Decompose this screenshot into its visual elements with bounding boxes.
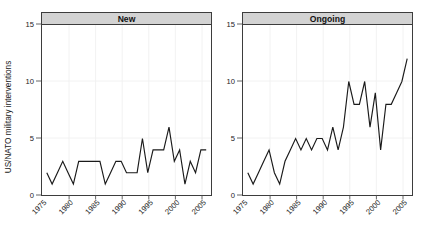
- x-tick-label: 1980: [258, 198, 276, 216]
- panel-ongoing-x-ticks: [270, 196, 403, 200]
- y-tick-label-10: 10: [227, 77, 235, 86]
- x-tick-label: 1985: [284, 198, 302, 216]
- x-tick-label: 2000: [364, 198, 382, 216]
- chart-figure: US/NATO military interventions 15 10 5 0…: [0, 0, 428, 238]
- x-tick-label: 1980: [57, 198, 75, 216]
- panel-ongoing: Ongoing 15 10 5 0: [227, 13, 413, 217]
- x-tick-label: 1990: [110, 198, 128, 216]
- panel-new-x-tick-labels: 1975 1980 1985 1990 1995 2000 2005: [30, 198, 208, 216]
- x-tick-label: 2005: [190, 198, 208, 216]
- x-tick-label: 2005: [391, 198, 409, 216]
- x-tick-label: 1995: [136, 198, 154, 216]
- x-tick-label: 2000: [163, 198, 181, 216]
- panel-ongoing-plotarea: [243, 25, 413, 196]
- panel-ongoing-x-tick-labels: 1975 1980 1985 1990 1995 2000 2005: [231, 198, 409, 216]
- x-tick-label: 1990: [311, 198, 329, 216]
- panel-new: New 1975 1980 1985 1990 199: [30, 13, 211, 217]
- y-axis-label: US/NATO military interventions: [4, 61, 13, 174]
- y-tick-label-10: 10: [26, 77, 34, 86]
- panel-ongoing-strip-label: Ongoing: [310, 14, 345, 24]
- y-tick-label-5: 5: [231, 134, 235, 143]
- panel-ongoing-y-ticks: 15 10 5 0: [227, 20, 242, 200]
- y-tick-label-5: 5: [30, 134, 34, 143]
- y-tick-label-15: 15: [227, 20, 235, 29]
- x-tick-label: 1995: [337, 198, 355, 216]
- y-tick-label-15: 15: [26, 20, 34, 29]
- x-tick-label: 1985: [83, 198, 101, 216]
- y-tick-label-0: 0: [231, 191, 235, 200]
- panel-new-x-ticks: [69, 196, 202, 200]
- y-axis-ticks-left: 15 10 5 0: [26, 20, 41, 200]
- y-tick-label-0: 0: [30, 191, 34, 200]
- x-tick-label: 1975: [30, 198, 48, 216]
- panel-new-strip-label: New: [118, 14, 136, 24]
- x-tick-label: 1975: [231, 198, 249, 216]
